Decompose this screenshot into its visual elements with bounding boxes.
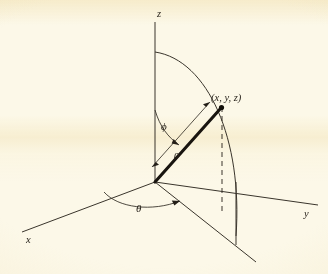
spherical-coordinates-figure: z x y (x, y, z) ϕ θ ρ: [0, 0, 328, 274]
phi-label: ϕ: [161, 120, 167, 132]
theta-label: θ: [136, 202, 142, 214]
meridian-arc: [155, 52, 237, 236]
figure-canvas: z x y (x, y, z) ϕ θ ρ: [0, 0, 328, 274]
rho-measure-arrow: [152, 102, 210, 167]
phi-angle-arc: [155, 110, 179, 145]
z-axis-label: z: [156, 8, 161, 19]
y-axis-label: y: [303, 208, 309, 219]
theta-angle-arc: [104, 192, 180, 207]
point-coordinates-label: (x, y, z): [211, 92, 242, 104]
x-axis-label: x: [25, 234, 31, 245]
point-marker: [219, 105, 224, 110]
rho-label: ρ: [173, 148, 179, 160]
